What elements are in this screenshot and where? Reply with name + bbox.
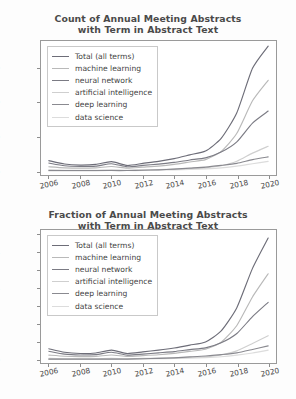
x-tick-label: 2018 [228,178,248,191]
legend-line-swatch [52,306,69,307]
legend-item[interactable]: machine learning [52,251,152,263]
x-tick-mark [80,364,81,367]
x-tick-mark [111,176,112,179]
legend-item-label: machine learning [75,64,141,73]
legend-line-swatch [52,68,69,69]
x-tick-label: 2012 [133,178,153,191]
x-tick-label: 2014 [165,178,185,191]
x-tick-mark [48,176,49,179]
x-tick-label: 2006 [39,366,59,379]
legend-item-label: artificial intelligence [75,88,152,97]
x-tick-label: 2010 [102,366,122,379]
x-tick-label: 2008 [70,178,90,191]
legend-item-label: neural network [75,76,132,85]
x-tick-mark [174,364,175,367]
legend-item[interactable]: neural network [52,263,152,275]
chart-panel-fraction: Fraction of Annual Meeting Abstracts wit… [0,199,296,399]
legend-item[interactable]: data science [52,300,152,312]
legend-item[interactable]: artificial intelligence [52,276,152,288]
legend-line-swatch [52,257,69,258]
legend-line-swatch [52,245,69,246]
x-tick-mark [206,364,207,367]
x-tick-mark [143,364,144,367]
x-tick-label: 2010 [102,178,122,191]
legend-line-swatch [52,293,69,294]
x-tick-mark [238,176,239,179]
legend-item-label: deep learning [75,100,127,109]
legend-fraction: Total (all terms)machine learningneural … [47,235,158,316]
legend-line-swatch [52,80,69,81]
legend-line-swatch [52,56,69,57]
legend-item[interactable]: neural network [52,74,152,86]
x-tick-mark [80,176,81,179]
x-tick-label: 2014 [165,366,185,379]
x-tick-mark [111,364,112,367]
x-tick-label: 2006 [39,178,59,191]
x-tick-mark [238,364,239,367]
chart-title-count-line2: with Term in Abstract Text [0,24,296,35]
x-tick-mark [269,176,270,179]
x-tick-label: 2016 [197,178,217,191]
x-tick-mark [48,364,49,367]
x-tick-label: 2016 [197,366,217,379]
legend-item-label: Total (all terms) [75,52,134,61]
plot-area-count: Total (all terms)machine learningneural … [40,40,277,176]
legend-count: Total (all terms)machine learningneural … [47,46,158,127]
x-tick-label: 2008 [70,366,90,379]
x-tick-mark [269,364,270,367]
legend-item[interactable]: Total (all terms) [52,239,152,251]
legend-item-label: neural network [75,265,132,274]
chart-title-fraction-line1: Fraction of Annual Meeting Abstracts [0,209,296,220]
legend-item-label: data science [75,113,123,122]
legend-item[interactable]: artificial intelligence [52,87,152,99]
legend-line-swatch [52,117,69,118]
legend-item-label: machine learning [75,253,141,262]
chart-title-count-line1: Count of Annual Meeting Abstracts [0,13,296,24]
legend-item-label: data science [75,302,123,311]
legend-item-label: Total (all terms) [75,241,134,250]
legend-line-swatch [52,281,69,282]
x-tick-label: 2012 [133,366,153,379]
legend-item[interactable]: machine learning [52,62,152,74]
x-tick-label: 2020 [260,178,280,191]
legend-item-label: artificial intelligence [75,277,152,286]
x-tick-label: 2020 [260,366,280,379]
legend-item[interactable]: deep learning [52,288,152,300]
figure-canvas: Count of Annual Meeting Abstracts with T… [0,0,296,399]
x-tick-mark [143,176,144,179]
legend-item-label: deep learning [75,289,127,298]
legend-line-swatch [52,104,69,105]
x-tick-label: 2018 [228,366,248,379]
legend-item[interactable]: data science [52,111,152,123]
legend-item[interactable]: Total (all terms) [52,50,152,62]
x-tick-mark [174,176,175,179]
chart-panel-count: Count of Annual Meeting Abstracts with T… [0,0,296,199]
legend-line-swatch [52,92,69,93]
plot-area-fraction: Total (all terms)machine learningneural … [40,229,277,364]
legend-line-swatch [52,269,69,270]
legend-item[interactable]: deep learning [52,99,152,111]
x-tick-mark [206,176,207,179]
chart-title-count: Count of Annual Meeting Abstracts with T… [0,13,296,36]
